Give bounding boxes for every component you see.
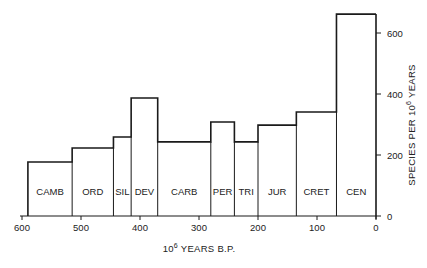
y-tick-label: 200 <box>387 150 403 161</box>
period-label-dev: DEV <box>135 186 155 197</box>
period-label-camb: CAMB <box>36 186 63 197</box>
x-tick-label: 0 <box>373 222 378 233</box>
period-label-carb: CARB <box>171 186 197 197</box>
x-tick-label: 100 <box>309 222 325 233</box>
x-tick-label: 600 <box>14 222 30 233</box>
x-tick-label: 400 <box>132 222 148 233</box>
period-label-cen: CEN <box>346 186 366 197</box>
period-label-jur: JUR <box>268 186 287 197</box>
period-label-sil: SIL <box>115 186 129 197</box>
x-tick-label: 500 <box>73 222 89 233</box>
period-label-ord: ORD <box>82 186 103 197</box>
y-tick-label: 0 <box>387 211 392 222</box>
x-tick-label: 300 <box>191 222 207 233</box>
species-rate-chart: 60050040030020010000200400600 CAMBORDSIL… <box>0 0 427 268</box>
period-label-tri: TRI <box>239 186 254 197</box>
x-axis-title: 106 YEARS B.P. <box>163 242 236 254</box>
x-tick-label: 200 <box>250 222 266 233</box>
period-label-cret: CRET <box>303 186 329 197</box>
period-labels: CAMBORDSILDEVCARBPERTRIJURCRETCEN <box>36 186 366 197</box>
period-label-per: PER <box>213 186 233 197</box>
y-tick-label: 600 <box>387 28 403 39</box>
y-tick-label: 400 <box>387 89 403 100</box>
y-axis-title: SPECIES PER 106 YEARS <box>405 64 417 185</box>
